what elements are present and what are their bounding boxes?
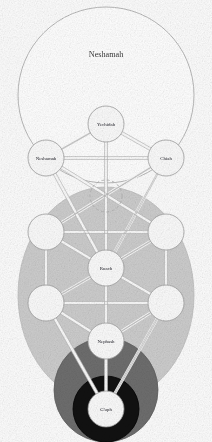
sephirah-hod-circle[interactable] [148,285,184,321]
sephirah-tiferet-label: Ruach [100,266,113,271]
sephirah-keter-label: Yechidah [97,122,116,127]
sephirah-chesed-circle[interactable] [28,214,64,250]
sephirah-chesed[interactable] [28,214,64,250]
sephirah-malkhut[interactable]: G'uph [88,391,124,427]
sephirah-malkhut-label: G'uph [100,407,112,412]
sephirah-chokhmah[interactable]: Chiah [148,140,184,176]
sephirah-yesod[interactable]: Nephash [88,323,124,359]
sephirah-gevurah-circle[interactable] [148,214,184,250]
sephirah-netzach[interactable] [28,285,64,321]
sephirah-chokhmah-label: Chiah [160,156,172,161]
sephirah-binah-label: Neshamah [36,156,57,161]
sephirah-yesod-label: Nephash [97,339,115,344]
sephirah-keter[interactable]: Yechidah [88,106,124,142]
sephirah-hod[interactable] [148,285,184,321]
sephirah-gevurah[interactable] [148,214,184,250]
tree-of-life-diagram: Neshamah [0,0,212,442]
sephirah-netzach-circle[interactable] [28,285,64,321]
sephirah-tiferet[interactable]: Ruach [88,250,124,286]
sephirah-binah[interactable]: Neshamah [28,140,64,176]
region-label-neshamah: Neshamah [89,50,124,59]
